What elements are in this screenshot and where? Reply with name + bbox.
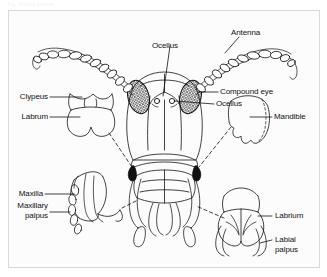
label-labrium: Labrium bbox=[275, 211, 303, 221]
label-maxillary-palpus-line1: Maxillary bbox=[0, 201, 48, 211]
antenna-left bbox=[32, 48, 134, 95]
label-compound-eye: Compound eye bbox=[220, 87, 273, 97]
ocellus-left-marker bbox=[154, 98, 159, 103]
label-ocellus-top: Ocellus bbox=[152, 41, 178, 51]
labium-submentum-on-head bbox=[134, 170, 195, 203]
inset-labium bbox=[216, 188, 267, 256]
label-labial-palpus-line1: Labial bbox=[275, 235, 296, 245]
label-labial-palpus-line2: palpus bbox=[275, 245, 298, 255]
label-clypeus: Clypeus bbox=[0, 92, 48, 102]
label-antenna: Antenna bbox=[231, 28, 260, 38]
label-mandible: Mandible bbox=[274, 112, 306, 122]
clypeus-labrum-on-head bbox=[131, 154, 197, 168]
figure-page: Fig. Head of a beetle bbox=[0, 0, 327, 277]
inset-maxilla bbox=[68, 172, 122, 235]
leader-lines bbox=[45, 37, 272, 243]
label-maxillary-palpus-line2: palpus bbox=[0, 211, 48, 221]
label-labrum: Labrum bbox=[0, 112, 48, 122]
ocellus-right-marker bbox=[169, 98, 174, 103]
label-maxilla: Maxilla bbox=[0, 189, 43, 199]
label-ocellus-right: Ocellus bbox=[216, 99, 242, 109]
inset-clypeus-labrum bbox=[67, 94, 114, 136]
